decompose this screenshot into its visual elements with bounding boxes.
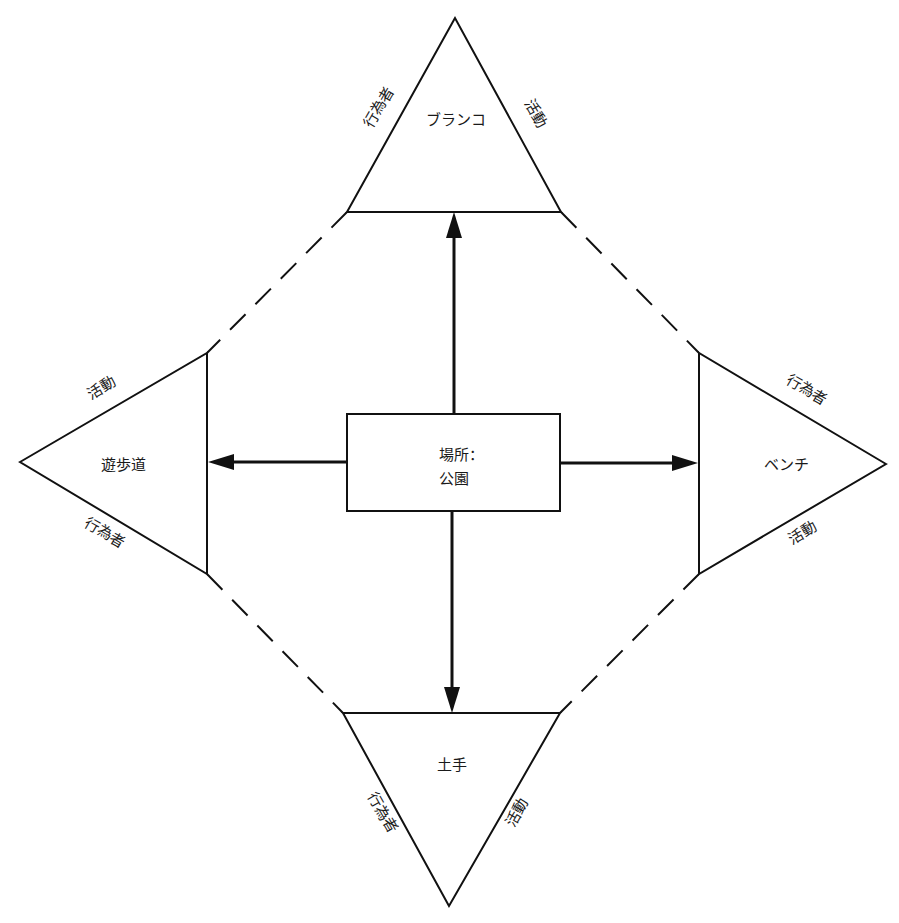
dashed-connector-bottom-right bbox=[560, 574, 699, 713]
node-top-label: ブランコ bbox=[426, 111, 486, 129]
center-label-line2: 公園 bbox=[439, 470, 469, 488]
node-left-path: 遊歩道 活動 行為者 bbox=[20, 353, 207, 574]
right-upper-edge-label: 行為者 bbox=[783, 371, 831, 409]
dashed-connector-top-right bbox=[561, 212, 699, 353]
arrow-left bbox=[208, 454, 347, 470]
left-upper-edge-label: 活動 bbox=[84, 372, 119, 403]
center-node-place-park: 場所： 公園 bbox=[347, 414, 560, 511]
node-top-swing: ブランコ 行為者 活動 bbox=[347, 18, 561, 212]
dashed-connector-top-left bbox=[207, 212, 347, 353]
right-lower-edge-label: 活動 bbox=[785, 517, 820, 548]
diagram-canvas: ブランコ 行為者 活動 遊歩道 活動 行為者 ベンチ 行為者 活動 土手 行為者… bbox=[0, 0, 899, 923]
arrow-down bbox=[444, 511, 460, 713]
arrow-right bbox=[560, 455, 698, 471]
node-right-label: ベンチ bbox=[764, 456, 809, 474]
arrow-up bbox=[446, 212, 462, 414]
node-left-label: 遊歩道 bbox=[101, 456, 146, 474]
node-right-bench: ベンチ 行為者 活動 bbox=[699, 353, 886, 574]
top-left-edge-label: 行為者 bbox=[360, 84, 398, 132]
dashed-connector-bottom-left bbox=[207, 574, 343, 713]
top-right-edge-label: 活動 bbox=[520, 96, 551, 131]
node-bottom-label: 土手 bbox=[437, 756, 467, 774]
node-bottom-bank: 土手 行為者 活動 bbox=[343, 713, 560, 906]
center-label-line1: 場所： bbox=[439, 446, 484, 464]
